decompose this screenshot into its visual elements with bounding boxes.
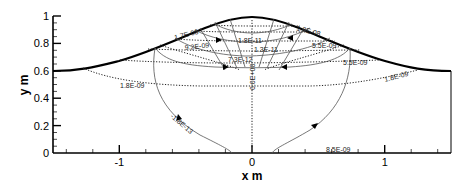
contour-label: 8.5E-09 xyxy=(326,146,351,153)
y-tick-label: 0.2 xyxy=(34,120,49,132)
x-tick-labels: -1 0 1 xyxy=(114,156,387,168)
contour-plot: 1 0.8 0.6 0.4 0.2 0 -1 0 1 x m y m xyxy=(0,0,469,186)
contour-label: 1.3E-11 xyxy=(254,46,278,53)
contour-label: 1.7E-08 xyxy=(173,28,199,41)
x-tick-label: 1 xyxy=(382,156,388,168)
contour-labels: 1.8E-09 1.8E-09 5.5E-09 5.5E-09 9.2E-09 … xyxy=(120,24,409,153)
x-tick-label: -1 xyxy=(114,156,124,168)
x-axis-title: x m xyxy=(242,169,263,183)
contour-label: 0.0E+00 xyxy=(249,64,256,90)
y-tick-label: 0.4 xyxy=(34,92,49,104)
y-tick-labels: 1 0.8 0.6 0.4 0.2 0 xyxy=(34,10,49,159)
contour-label: 5.5E-09 xyxy=(343,59,368,66)
contour-label: 9.2E-09 xyxy=(184,41,209,51)
y-tick-label: 0.6 xyxy=(34,65,49,77)
y-tick-label: 0 xyxy=(43,147,49,159)
y-tick-label: 1 xyxy=(43,10,49,22)
y-tick-label: 0.8 xyxy=(34,37,49,49)
contour-label: 1.8E-11 xyxy=(238,37,262,44)
contour-label: 5.5E-09 xyxy=(312,42,337,49)
contour-label: 7.3E-12 xyxy=(228,56,253,63)
contour-label: 1.8E-09 xyxy=(383,70,409,83)
contour-label: -1.8E-13 xyxy=(169,112,194,135)
y-axis-title: y m xyxy=(17,75,31,96)
x-tick-label: 0 xyxy=(249,156,255,168)
contour-label: 1.8E-09 xyxy=(120,82,145,89)
